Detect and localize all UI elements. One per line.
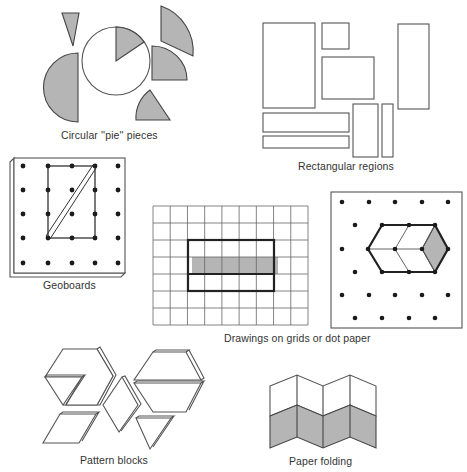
dot-paper-dot [340,293,345,298]
dot-paper-dot [407,316,412,321]
dot-paper-dot [353,223,358,228]
dot-paper-dot [433,223,438,228]
dot-paper-dot [366,247,371,252]
dot-paper-dot [446,247,451,252]
dot-paper-dot [393,247,398,252]
rect-large [263,23,315,108]
dot-paper-dot [340,247,345,252]
geoboard-peg [21,261,26,266]
dot-paper-dot [433,316,438,321]
pattern-blocks-group [43,347,204,449]
pie-bottom-wedge [136,90,170,120]
geoboard-peg [93,261,98,266]
pie-half-circle [43,53,78,122]
rect-vertical [353,104,378,157]
rectangles-group [263,23,429,157]
geoboard-peg [116,261,121,266]
block-rhombus-lower [43,414,96,443]
dot-paper-dot [420,200,425,205]
pie-pieces-group [43,6,193,122]
dot-paper-dot [367,200,372,205]
dot-paper-dot [407,270,412,275]
geoboard-peg [46,261,51,266]
dot-paper-dot [353,270,358,275]
geoboard-peg [70,261,75,266]
label-geoboards: Geoboards [43,279,96,291]
dot-paper-group [331,192,462,328]
block-trapezoid-bottom [134,383,201,412]
dot-paper-dot [393,200,398,205]
rect-small-square [322,23,349,49]
dot-paper-dot [446,293,451,298]
geoboard-board [14,158,125,273]
dot-paper-dot [367,293,372,298]
rect-narrow-vertical [382,104,393,157]
dot-paper-dot [380,316,385,321]
geoboard-peg [116,236,121,241]
label-paper-folding: Paper folding [289,455,352,467]
label-rectangular-regions: Rectangular regions [298,160,394,172]
dot-paper-dot [420,247,425,252]
pie-thin-wedge [62,13,79,46]
geoboard-peg [116,164,121,169]
geoboard-peg [116,212,121,217]
geoboard-peg [21,188,26,193]
rect-medium [322,57,374,99]
geoboard-peg [21,236,26,241]
geoboard-group [10,158,125,277]
label-grids-dot-paper: Drawings on grids or dot paper [224,332,371,344]
block-trapezoid-top [134,352,201,380]
rect-long-bar [263,113,349,132]
dot-paper-dot [407,223,412,228]
rect-thin-bar [263,136,349,148]
label-pie-pieces: Circular ''pie'' pieces [61,129,158,141]
rect-tall [398,24,429,109]
geoboard-peg [70,188,75,193]
dot-paper-dot [393,293,398,298]
geoboard-peg [21,164,26,169]
geoboard-peg [21,212,26,217]
manipulatives-diagram [0,0,467,472]
dot-shaded-rhombus [422,225,448,272]
dot-paper-dot [420,293,425,298]
block-triangle [136,418,171,449]
dot-paper-dot [380,223,385,228]
dot-paper-dot [433,270,438,275]
geoboard-peg [70,212,75,217]
paper-folding-group [270,375,376,448]
geoboard-peg [116,188,121,193]
dot-paper-dot [380,270,385,275]
dot-paper-dot [353,316,358,321]
grid-paper-group [153,206,308,325]
dot-paper-dot [446,200,451,205]
dot-paper-dot [340,200,345,205]
label-pattern-blocks: Pattern blocks [80,454,148,466]
